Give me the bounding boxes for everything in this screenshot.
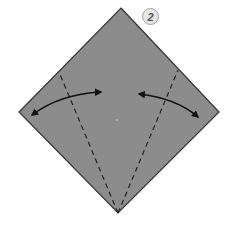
step-number-badge: 2 [142, 8, 159, 25]
origami-diagram [0, 0, 234, 235]
center-mark [116, 119, 118, 121]
